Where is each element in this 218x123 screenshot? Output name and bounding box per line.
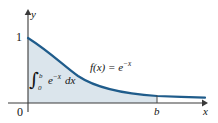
- function-label: f(x) = e−x: [90, 61, 131, 73]
- integral-figure: y x 1 0 b f(x) = e−x ∫b0e−xdx: [0, 0, 218, 123]
- y-axis-label: y: [31, 9, 36, 20]
- integrand-differential: dx: [65, 74, 75, 86]
- integral-lower-limit: 0: [38, 85, 42, 92]
- x-axis-label: x: [203, 106, 208, 117]
- integrand-exponent: −x: [53, 73, 61, 81]
- function-label-exponent: −x: [123, 60, 131, 68]
- integral-expression: ∫b0e−xdx: [29, 74, 75, 86]
- origin-label-zero: 0: [17, 106, 23, 118]
- x-tick-label-b: b: [154, 106, 160, 117]
- y-tick-label-one: 1: [16, 31, 22, 43]
- function-label-text: f(x) = e: [90, 61, 123, 73]
- integral-upper-limit: b: [39, 73, 43, 80]
